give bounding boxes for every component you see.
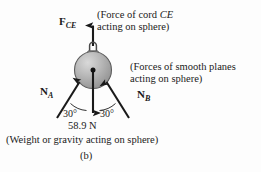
angle-label-left: 30°	[63, 108, 77, 119]
cord-force-annotation-line1-prefix: (Force of cord	[97, 9, 160, 20]
force-label-nb-name: N	[137, 88, 145, 100]
force-label-na: NA	[40, 85, 53, 98]
force-label-na-subscript: A	[48, 91, 53, 100]
plane-forces-annotation: (Forces of smooth planesacting on sphere…	[130, 61, 236, 85]
weight-annotation: (Weight or gravity acting on sphere)	[6, 134, 158, 146]
force-label-nb-subscript: B	[145, 94, 150, 103]
force-label-fce: FCE	[59, 15, 76, 28]
cord-force-annotation-line1-italic: CE	[160, 9, 173, 20]
cord-force-annotation-line2: acting on sphere)	[97, 21, 169, 32]
angle-label-right: 30°	[100, 108, 114, 119]
cord-force-annotation: (Force of cord CEacting on sphere)	[97, 9, 173, 33]
free-body-diagram-figure: FCE NA NB 30° 30° 58.9 N (Force of cord …	[0, 0, 261, 172]
force-label-fce-subscript: CE	[66, 21, 77, 30]
force-label-fce-name: F	[59, 15, 66, 27]
force-label-na-name: N	[40, 85, 48, 97]
plane-forces-annotation-line2: acting on sphere)	[130, 73, 202, 84]
part-caption: (b)	[80, 150, 92, 162]
plane-forces-annotation-line1: (Forces of smooth planes	[130, 61, 236, 72]
weight-magnitude-label: 58.9 N	[68, 120, 97, 132]
force-label-nb: NB	[137, 88, 150, 101]
center-point-icon	[91, 68, 96, 73]
